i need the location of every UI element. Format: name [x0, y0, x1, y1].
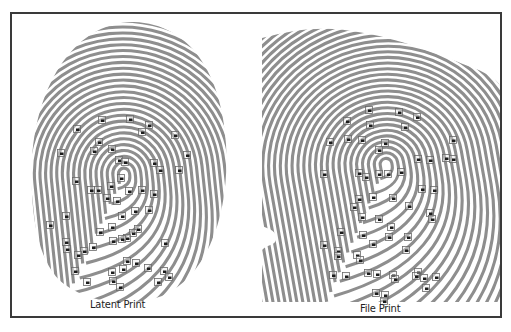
latent-print-panel: Latent Print	[12, 14, 256, 316]
latent-print-caption: Latent Print	[90, 298, 145, 311]
file-print-panel: File Print	[258, 14, 500, 316]
file-print-caption: File Print	[360, 302, 400, 315]
latent-fingerprint-image	[12, 14, 256, 316]
figure-frame: Latent Print File Print	[10, 12, 502, 318]
file-fingerprint-image	[258, 14, 500, 316]
